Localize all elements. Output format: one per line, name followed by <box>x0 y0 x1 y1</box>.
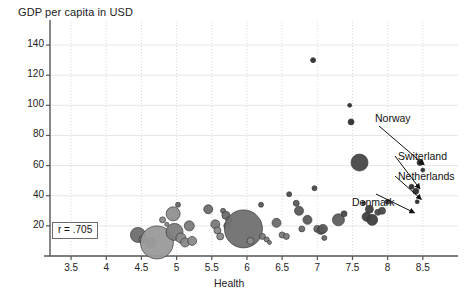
data-point-bubble <box>348 119 354 125</box>
gdp-health-bubble-chart: GDP per capita in USD 204060801001201403… <box>0 0 464 299</box>
x-tick-label: 8 <box>368 262 408 273</box>
data-point-bubble <box>312 186 317 191</box>
data-point-bubble <box>322 235 327 240</box>
data-point-bubble <box>160 217 166 223</box>
data-point-bubble <box>176 202 181 207</box>
data-point-bubble <box>287 192 292 197</box>
y-tick-label: 140 <box>8 38 44 49</box>
x-tick-label: 3.5 <box>51 262 91 273</box>
correlation-badge: r = .705 <box>52 222 98 239</box>
data-point-bubble <box>166 207 180 221</box>
data-point-bubble <box>267 240 271 244</box>
data-point-bubble <box>409 184 414 189</box>
data-point-bubble <box>341 211 347 217</box>
x-axis-title: Health <box>214 277 244 289</box>
data-point-bubble <box>318 224 327 233</box>
y-tick-label: 100 <box>8 98 44 109</box>
x-tick-label: 4.5 <box>121 262 161 273</box>
x-tick-label: 6.5 <box>262 262 302 273</box>
x-tick-label: 7.5 <box>332 262 372 273</box>
data-point-bubble <box>247 237 254 244</box>
data-point-bubble <box>351 154 368 171</box>
data-point-bubble <box>415 200 419 204</box>
data-point-bubble <box>188 236 197 245</box>
data-point-bubble <box>299 226 305 232</box>
data-point-bubble <box>217 233 224 240</box>
annotation-label-denmark: Denmark <box>352 196 395 208</box>
y-tick-label: 40 <box>8 189 44 200</box>
data-point-bubble <box>367 214 378 225</box>
data-point-bubble <box>204 205 213 214</box>
data-point-bubble <box>283 233 289 239</box>
data-point-bubble <box>348 103 352 107</box>
x-tick-label: 5 <box>157 262 197 273</box>
x-tick-label: 7 <box>297 262 337 273</box>
annotation-label-netherlands: Netherlands <box>398 170 455 182</box>
data-point-bubble <box>259 202 264 207</box>
annotation-label-norway: Norway <box>375 112 411 124</box>
data-point-bubble <box>413 188 419 194</box>
data-point-bubble <box>293 200 299 206</box>
data-point-bubble <box>311 58 316 63</box>
y-tick-label: 80 <box>8 128 44 139</box>
data-point-bubble <box>184 221 194 231</box>
x-tick-label: 8.5 <box>403 262 443 273</box>
data-point-bubble <box>303 215 312 224</box>
data-points-layer <box>130 58 424 259</box>
x-tick-label: 6 <box>227 262 267 273</box>
plot-canvas <box>0 0 464 299</box>
y-tick-label: 60 <box>8 159 44 170</box>
y-tick-label: 20 <box>8 219 44 230</box>
data-point-bubble <box>224 210 262 248</box>
data-point-bubble <box>295 206 304 215</box>
annotation-label-switerland: Switerland <box>398 150 447 162</box>
x-tick-label: 5.5 <box>192 262 232 273</box>
y-tick-label: 120 <box>8 68 44 79</box>
x-tick-label: 4 <box>86 262 126 273</box>
data-point-bubble <box>272 218 281 227</box>
data-point-bubble <box>379 207 386 214</box>
